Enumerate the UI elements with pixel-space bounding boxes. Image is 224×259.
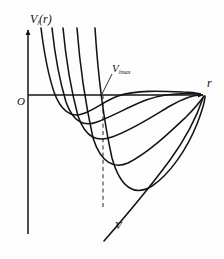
axes [28,30,203,234]
origin-label: O [17,95,25,107]
barrier-max-label: Vlmax [112,62,130,74]
y-axis-label-arg: (r) [39,12,52,26]
vmax-leader-line [102,74,112,94]
curve-l1 [95,28,205,190]
effective-potential-figure: Vl(r) r O Vlmax V [0,0,224,259]
potential-plot [0,0,224,259]
x-axis-label: r [207,76,212,91]
barrier-max-label-subscript: lmax [119,69,131,75]
curve-l4 [52,28,200,124]
effective-potential-curves [41,28,205,190]
y-axis-label-subscript: l [37,20,39,26]
bare-potential-label: V [115,219,122,231]
barrier-max-label-main: V [112,62,119,74]
y-axis-label: Vl(r) [30,12,52,27]
